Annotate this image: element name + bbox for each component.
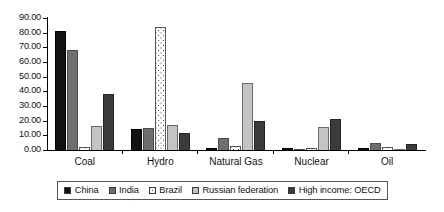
bar-group [47,18,123,150]
bar [218,138,229,150]
bar [143,128,154,150]
category-label: Coal [47,153,123,171]
bar [282,148,293,150]
bar-group [198,18,274,150]
bar [91,126,102,150]
category-label: Hydro [123,153,199,171]
legend-item[interactable]: Brazil [149,186,182,195]
bar [358,148,369,150]
bar [155,27,166,150]
bar [67,50,78,150]
legend-swatch-icon [64,187,71,194]
bar-groups [47,18,425,150]
bar [394,149,405,151]
bar [242,83,253,150]
bar [206,148,217,150]
bar-group [274,18,350,150]
bar [167,125,178,150]
legend-label: India [119,186,139,195]
legend-label: China [75,186,99,195]
legend-label: Russian federation [202,186,278,195]
legend-swatch-icon [288,187,295,194]
category-label: Nuclear [274,153,350,171]
bar [370,143,381,150]
bar-group [123,18,199,150]
legend-item[interactable]: High income: OECD [288,186,381,195]
chart-legend: ChinaIndiaBrazilRussian federationHigh i… [57,181,388,200]
legend-label: Brazil [159,186,182,195]
legend-swatch-icon [192,187,199,194]
legend-label: High income: OECD [299,186,381,195]
x-axis-line [47,150,426,151]
bar-chart: 0.0010.0020.0030.0040.0050.0060.0070.008… [0,0,444,212]
bar [55,31,66,150]
legend-item[interactable]: India [109,186,139,195]
bar [79,147,90,150]
bar [406,144,417,150]
legend-item[interactable]: Russian federation [192,186,278,195]
bar [103,94,114,150]
bar [179,133,190,150]
bar [294,149,305,151]
category-label: Oil [349,153,425,171]
y-tick-mark [43,150,47,151]
legend-swatch-icon [149,187,156,194]
bar [330,119,341,150]
legend-item[interactable]: China [64,186,98,195]
plot-area: 0.0010.0020.0030.0040.0050.0060.0070.008… [47,18,425,150]
bar [254,121,265,150]
category-label: Natural Gas [198,153,274,171]
bar [318,127,329,150]
bar-group [349,18,425,150]
x-axis-category-labels: CoalHydroNatural GasNuclearOil [47,153,425,171]
bar [131,129,142,150]
bar [230,146,241,150]
legend-swatch-icon [109,187,116,194]
bar [306,148,317,150]
bar [382,147,393,150]
